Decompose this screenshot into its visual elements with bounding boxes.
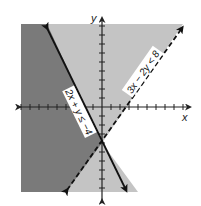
x-axis-label: x [181, 111, 188, 123]
inequality-graph: y x 2x + y ≤ −4 3x − 2y < 8 [0, 0, 201, 206]
y-axis-label: y [90, 12, 98, 24]
unshaded-region-upper [183, 24, 201, 192]
